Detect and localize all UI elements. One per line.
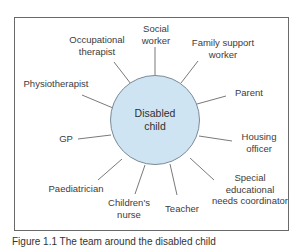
node-senco: Special educational needs coordinator — [207, 172, 293, 207]
line-teacher — [170, 164, 177, 195]
node-label: Housing — [234, 131, 284, 143]
node-housing-officer: Housing officer — [234, 131, 284, 154]
center-label-line1: Disabled — [135, 107, 176, 120]
node-label: worker — [136, 35, 176, 47]
node-occupational-therapist: Occupational therapist — [66, 34, 128, 57]
center-node-disabled-child: Disabled child — [110, 75, 200, 165]
node-label: Paediatrician — [45, 183, 107, 195]
node-label: Teacher — [160, 203, 204, 215]
line-physiotherapist — [82, 95, 113, 108]
node-label: needs coordinator — [207, 195, 293, 207]
line-paediatrician — [98, 159, 122, 180]
node-label: therapist — [66, 46, 128, 58]
node-label: Physiotherapist — [20, 78, 92, 90]
node-parent: Parent — [229, 87, 269, 99]
node-family-support-worker: Family support worker — [183, 37, 263, 60]
node-label: GP — [57, 133, 75, 145]
node-label: Children's — [101, 197, 157, 209]
line-occupational — [114, 62, 131, 84]
node-paediatrician: Paediatrician — [45, 183, 107, 195]
node-childrens-nurse: Children's nurse — [101, 197, 157, 220]
line-childrens-nurse — [135, 165, 145, 194]
node-label: Social — [136, 23, 176, 35]
node-label: worker — [183, 49, 263, 61]
line-housing — [199, 136, 232, 141]
node-social-worker: Social worker — [136, 23, 176, 46]
node-label: Special — [207, 172, 293, 184]
center-label-line2: child — [135, 120, 176, 133]
line-parent — [197, 96, 226, 104]
line-family-support — [181, 61, 198, 83]
node-label: Family support — [183, 37, 263, 49]
figure-caption: Figure 1.1 The team around the disabled … — [12, 236, 216, 247]
node-label: Occupational — [66, 34, 128, 46]
node-gp: GP — [57, 133, 75, 145]
line-gp — [78, 135, 111, 139]
node-label: Parent — [229, 87, 269, 99]
node-label: nurse — [101, 209, 157, 221]
node-physiotherapist: Physiotherapist — [20, 78, 92, 90]
node-label: officer — [234, 143, 284, 155]
node-teacher: Teacher — [160, 203, 204, 215]
node-label: educational — [207, 184, 293, 196]
